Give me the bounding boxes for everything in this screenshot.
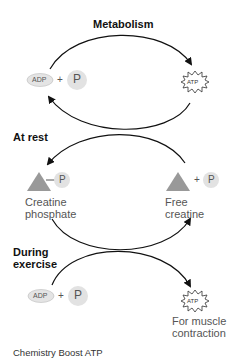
during-title-line2: exercise	[13, 258, 57, 270]
atp-to-adp-arrow	[49, 97, 190, 129]
free-creatine-line1: Free	[165, 196, 188, 208]
plus-top: +	[57, 74, 63, 86]
creatine-phosphate-line2: phosphate	[25, 208, 76, 220]
phosphate-label-fc: P	[208, 174, 215, 186]
free-creatine-line2: creatine	[165, 208, 204, 220]
plus-bottom: +	[58, 290, 64, 302]
phosphate-label-top: P	[73, 73, 81, 85]
muscle-line1: For muscle	[172, 315, 226, 327]
at-rest-title: At rest	[13, 131, 48, 143]
creatine-triangle	[27, 172, 51, 191]
phosphate-label-bottom: P	[74, 289, 82, 301]
metabolism-arrow	[50, 35, 191, 69]
phosphate-label-cp: P	[59, 174, 66, 186]
free-creatine-triangle	[166, 172, 190, 191]
plus-fc: +	[194, 174, 200, 186]
exercise-creatine-arrow	[52, 219, 190, 250]
creatine-phosphate-line1: Creatine	[25, 196, 67, 208]
adp-label-top: ADP	[32, 76, 46, 84]
atp-label-bottom: ATP	[187, 298, 198, 305]
at-rest-arrow	[48, 135, 185, 164]
exercise-adp-arrow	[52, 251, 190, 286]
metabolism-title: Metabolism	[93, 18, 154, 30]
adp-label-bottom: ADP	[33, 292, 47, 300]
caption: Chemistry Boost ATP	[13, 347, 103, 358]
during-title-line1: During	[13, 246, 48, 258]
atp-label-top: ATP	[187, 79, 198, 86]
muscle-line2: contraction	[172, 327, 226, 339]
